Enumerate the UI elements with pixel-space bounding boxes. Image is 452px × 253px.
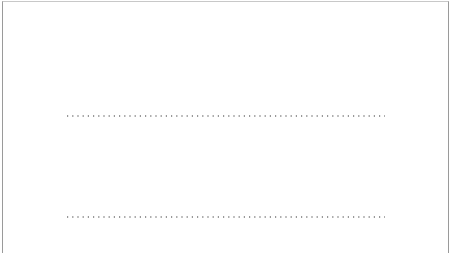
chart-canvas [0, 0, 452, 253]
